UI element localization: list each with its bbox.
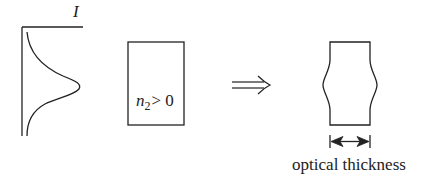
intensity-profile — [22, 27, 83, 136]
optical-thickness-caption: optical thickness — [292, 155, 406, 174]
lens-shaped-medium — [323, 42, 377, 125]
nonlinear-lens-diagram: I n2> 0 optical thickness — [0, 0, 435, 182]
medium-label-var: n — [136, 91, 145, 110]
gaussian-curve — [27, 32, 80, 136]
medium-label: n2> 0 — [136, 91, 174, 113]
medium-label-rel: > 0 — [152, 91, 174, 110]
medium-label-sub: 2 — [145, 99, 151, 113]
intensity-label: I — [72, 2, 80, 21]
medium-block — [128, 42, 184, 125]
implies-arrow-icon — [232, 76, 270, 94]
thickness-dimension-arrow-icon — [330, 135, 370, 148]
